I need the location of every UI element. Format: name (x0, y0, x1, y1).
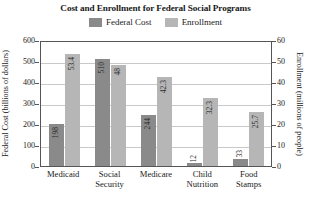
bar-value-label: 198 (52, 127, 60, 138)
bar-value-label: 33 (236, 150, 244, 158)
y-axis-right-tick-mark (272, 104, 276, 105)
y-axis-right: 0102030405060 (273, 41, 293, 167)
y-axis-left-tick-mark (35, 62, 39, 63)
x-axis-label-medicare: Medicare (134, 169, 178, 189)
y-axis-right-tick-label: 40 (277, 79, 285, 87)
y-axis-left-tick-label: 600 (23, 37, 35, 45)
y-axis-left-tick-label: 300 (23, 100, 35, 108)
y-axis-right-tick-mark (272, 41, 276, 42)
legend-item-enrollment: Enrollment (165, 17, 223, 27)
y-axis-left-tick-mark (35, 167, 39, 168)
chart-container: Cost and Enrollment for Federal Social P… (0, 0, 311, 201)
bar-federal-cost[interactable]: 12 (187, 163, 202, 166)
bar-group: 24442.3 (141, 42, 172, 166)
y-axis-left-tick-mark (35, 104, 39, 105)
x-axis-label-medicaid: Medicaid (41, 169, 85, 189)
y-axis-right-tick-label: 10 (277, 142, 285, 150)
y-axis-left-title: Federal Cost (billions of dollars) (1, 41, 10, 167)
bar-group: 51048 (95, 42, 126, 166)
bar-value-label: 244 (144, 118, 152, 129)
y-axis-left-tick-label: 500 (23, 58, 35, 66)
x-axis-label-child-nutrition: ChildNutrition (180, 169, 224, 189)
chart-title: Cost and Enrollment for Federal Social P… (0, 2, 311, 14)
bar-value-label: 12 (190, 155, 198, 163)
bars-layer: 19853.45104824442.31232.33325.7 (41, 42, 271, 166)
y-axis-left-tick-label: 100 (23, 142, 35, 150)
legend-swatch-federal-cost (89, 18, 102, 27)
bar-enrollment[interactable]: 32.3 (203, 98, 218, 166)
bar-enrollment[interactable]: 25.7 (249, 112, 264, 166)
bar-value-label: 53.4 (68, 57, 76, 70)
bar-federal-cost[interactable]: 198 (49, 124, 64, 166)
y-axis-right-tick-mark (272, 146, 276, 147)
y-axis-left-tick-label: 400 (23, 79, 35, 87)
y-axis-left: 0100200300400500600 (18, 41, 38, 167)
y-axis-right-tick-label: 50 (277, 58, 285, 66)
y-axis-left-tick-mark (35, 41, 39, 42)
bar-enrollment[interactable]: 48 (111, 65, 126, 166)
y-axis-right-tick-mark (272, 167, 276, 168)
y-axis-right-tick-mark (272, 125, 276, 126)
bar-federal-cost[interactable]: 33 (233, 159, 248, 166)
bar-value-label: 25.7 (252, 115, 260, 128)
bar-enrollment[interactable]: 42.3 (157, 77, 172, 166)
bar-value-label: 510 (98, 62, 106, 73)
y-axis-left-tick-label: 200 (23, 121, 35, 129)
y-axis-left-tick-mark (35, 83, 39, 84)
bar-value-label: 42.3 (160, 80, 168, 93)
x-axis-labels: MedicaidSocialSecurityMedicareChildNutri… (40, 169, 272, 189)
bar-value-label: 32.3 (206, 101, 214, 114)
bar-federal-cost[interactable]: 244 (141, 115, 156, 166)
y-axis-right-tick-label: 30 (277, 100, 285, 108)
bar-enrollment[interactable]: 53.4 (65, 54, 80, 166)
y-axis-right-tick-label: 60 (277, 37, 285, 45)
legend-label-federal-cost: Federal Cost (106, 17, 152, 27)
legend-item-federal-cost: Federal Cost (89, 17, 152, 27)
legend-swatch-enrollment (165, 18, 178, 27)
chart-legend: Federal Cost Enrollment (0, 17, 311, 27)
y-axis-right-tick-mark (272, 83, 276, 84)
bar-group: 3325.7 (233, 42, 264, 166)
legend-label-enrollment: Enrollment (182, 17, 223, 27)
plot-area: 19853.45104824442.31232.33325.7 (40, 41, 272, 167)
y-axis-left-tick-mark (35, 146, 39, 147)
y-axis-left-tick-mark (35, 125, 39, 126)
bar-federal-cost[interactable]: 510 (95, 59, 110, 166)
y-axis-right-tick-mark (272, 62, 276, 63)
bar-group: 19853.4 (49, 42, 80, 166)
y-axis-right-title: Enrollment (millions of people) (295, 41, 304, 167)
y-axis-right-tick-label: 20 (277, 121, 285, 129)
x-axis-label-social-security: SocialSecurity (88, 169, 132, 189)
bar-value-label: 48 (114, 68, 122, 76)
bar-group: 1232.3 (187, 42, 218, 166)
y-axis-right-tick-label: 0 (277, 163, 281, 171)
x-axis-label-food-stamps: FoodStamps (227, 169, 271, 189)
